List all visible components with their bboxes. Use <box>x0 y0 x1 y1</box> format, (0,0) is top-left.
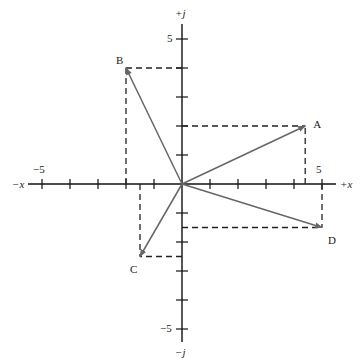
vector-a <box>182 126 305 184</box>
y-tick-min-label: −5 <box>160 322 172 334</box>
vector-b <box>126 68 182 184</box>
vector-diagram: +x −x +j −j −5 5 5 −5 ABCD <box>0 0 361 364</box>
x-tick-min-label: −5 <box>33 163 45 175</box>
vector-label-a: A <box>313 118 321 130</box>
x-pos-label: +x <box>340 178 352 190</box>
vector-label-d: D <box>328 234 336 246</box>
x-tick-max-label: 5 <box>316 163 322 175</box>
y-neg-label: −j <box>175 346 185 358</box>
vectors <box>126 68 322 257</box>
vector-c <box>140 184 182 257</box>
y-tick-max-label: 5 <box>167 32 173 44</box>
vector-label-b: B <box>116 54 123 66</box>
vector-label-c: C <box>130 263 137 275</box>
x-neg-label: −x <box>12 178 24 190</box>
y-pos-label: +j <box>175 7 185 19</box>
vector-d <box>182 184 322 228</box>
projection-lines <box>126 68 322 257</box>
